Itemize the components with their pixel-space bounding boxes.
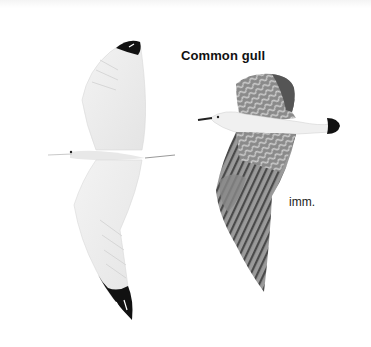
immature-label: imm.: [289, 195, 315, 209]
field-guide-page: Common gull imm.: [0, 0, 371, 347]
gull-adult-underside-illustration: [48, 41, 175, 320]
gull-immature-upperside-illustration: [198, 74, 340, 292]
species-title: Common gull: [181, 48, 265, 63]
